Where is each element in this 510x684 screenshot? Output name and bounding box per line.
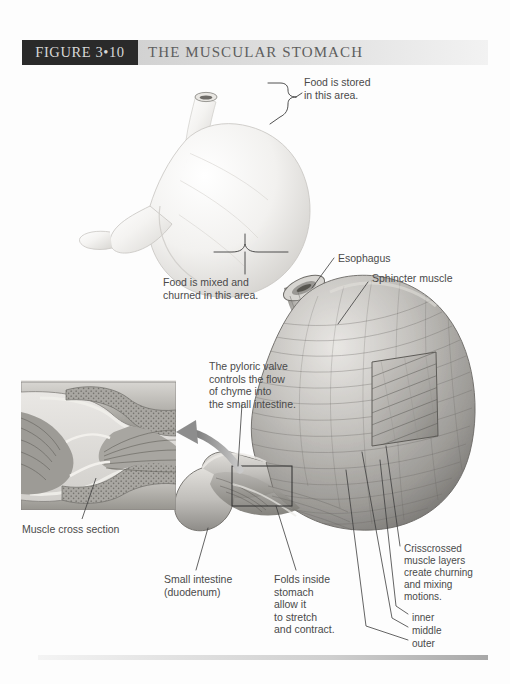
label-layer-middle: middle (412, 625, 472, 637)
label-sphincter-muscle: Sphincter muscle (372, 272, 502, 285)
figure-page: FIGURE 3•10 THE MUSCULAR STOMACH (0, 0, 510, 684)
label-muscle-cross-section: Muscle cross section (22, 523, 182, 536)
label-crisscrossed-muscle: Crisscrossed muscle layers create churni… (404, 543, 509, 603)
label-folds-inside-stomach: Folds inside stomach allow it to stretch… (274, 573, 384, 636)
top-stomach-illustration (79, 92, 310, 297)
label-pyloric-valve: The pyloric valve controls the flow of c… (209, 360, 339, 410)
label-food-churned: Food is mixed and churned in this area. (163, 276, 313, 301)
label-layer-inner: inner (412, 612, 472, 624)
label-food-stored: Food is stored in this area. (304, 76, 434, 101)
footer-rule (38, 655, 488, 660)
label-esophagus: Esophagus (338, 252, 458, 265)
label-layer-outer: outer (412, 638, 472, 650)
leader-food-stored (268, 83, 302, 124)
inset-illustration (21, 380, 176, 510)
label-small-intestine: Small intestine (duodenum) (164, 573, 274, 598)
